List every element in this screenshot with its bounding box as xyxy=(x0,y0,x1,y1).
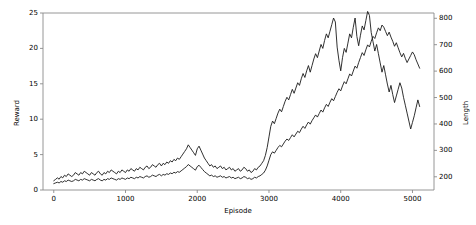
x-tick-label: 1000 xyxy=(117,195,135,203)
y-right-tick-label: 800 xyxy=(439,14,452,22)
series-line-reward xyxy=(54,25,420,184)
y-axis-right-ticks xyxy=(434,18,437,177)
y-right-tick-label: 600 xyxy=(439,67,452,75)
y-axis-left-label: Reward xyxy=(13,99,21,125)
y-left-tick-label: 10 xyxy=(29,115,38,123)
y-left-tick-label: 5 xyxy=(34,151,38,159)
y-right-tick-label: 400 xyxy=(439,120,452,128)
y-axis-right-label: Length xyxy=(462,100,470,124)
y-left-tick-label: 25 xyxy=(29,9,38,17)
x-tick-label: 4000 xyxy=(332,195,350,203)
y-left-tick-label: 20 xyxy=(29,44,38,52)
x-tick-label: 2000 xyxy=(188,195,206,203)
y-left-tick-label: 0 xyxy=(34,186,38,194)
y-right-tick-label: 500 xyxy=(439,94,452,102)
x-tick-label: 3000 xyxy=(260,195,278,203)
data-series-group xyxy=(54,11,420,183)
x-axis-label: Episode xyxy=(224,207,252,215)
x-tick-label: 5000 xyxy=(404,195,422,203)
y-right-tick-label: 700 xyxy=(439,41,452,49)
x-tick-label: 0 xyxy=(52,195,56,203)
axis-spines xyxy=(43,13,434,190)
chart-axes-svg xyxy=(0,0,476,225)
y-left-tick-label: 15 xyxy=(29,80,38,88)
y-right-tick-label: 200 xyxy=(439,173,452,181)
y-right-tick-label: 300 xyxy=(439,146,452,154)
figure: 010002000300040005000 0510152025 2003004… xyxy=(0,0,476,225)
series-line-length xyxy=(54,11,420,180)
